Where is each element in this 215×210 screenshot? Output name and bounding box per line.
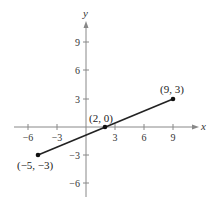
y-axis-label: y <box>82 7 88 19</box>
point-9-3 <box>171 97 176 102</box>
point-2-0 <box>103 125 108 130</box>
y-tick-label: −6 <box>69 178 80 189</box>
x-axis-label: x <box>200 120 206 132</box>
x-tick-label: −3 <box>52 132 63 143</box>
y-axis-arrow-icon <box>84 21 89 28</box>
y-tick-label: 9 <box>75 37 80 48</box>
point-m5-m3 <box>36 153 41 158</box>
point-label: (−5, −3) <box>17 159 54 172</box>
point-label: (2, 0) <box>89 112 113 125</box>
y-tick-label: 3 <box>75 94 80 105</box>
point-label: (9, 3) <box>160 83 184 96</box>
y-tick-label: 6 <box>75 65 80 76</box>
x-tick-label: 9 <box>171 132 176 143</box>
x-tick-label: 6 <box>142 132 147 143</box>
x-tick-label: 3 <box>113 132 118 143</box>
coordinate-plane: x y −6 −3 3 6 9 9 6 3 −3 −6 (9, 3) (2, 0… <box>0 0 215 210</box>
y-tick-label: −3 <box>69 150 80 161</box>
x-tick-label: −6 <box>23 132 34 143</box>
x-axis-arrow-icon <box>192 125 199 130</box>
